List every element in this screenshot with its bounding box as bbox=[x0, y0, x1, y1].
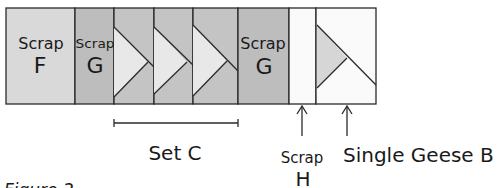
scrap-g-2-label-line1: Scrap bbox=[240, 34, 286, 53]
set-c-label: Set C bbox=[148, 141, 201, 165]
arrow-single-geese-b bbox=[342, 106, 352, 136]
block-scrap-h bbox=[289, 8, 316, 104]
figure-caption: Figure 2 bbox=[4, 180, 74, 188]
scrap-f-label-line1: Scrap bbox=[18, 34, 64, 53]
scrap-f-label-line2: F bbox=[34, 53, 47, 78]
block-flying-geese-2 bbox=[154, 8, 193, 104]
single-geese-b-label: Single Geese B bbox=[343, 143, 494, 167]
scrap-h-label-line2: H bbox=[295, 167, 310, 188]
scrap-g-1-label-line1: Scrap bbox=[76, 36, 115, 51]
scrap-g-1-label-line2: G bbox=[86, 53, 103, 78]
block-flying-geese-3 bbox=[193, 8, 238, 104]
block-single-geese-b bbox=[316, 8, 376, 104]
quilt-row-diagram: Scrap F Scrap G Scrap G Set C Scrap H Si… bbox=[0, 0, 501, 188]
arrow-scrap-h bbox=[297, 106, 307, 136]
scrap-h-label-line1: Scrap bbox=[281, 149, 324, 167]
block-flying-geese-1 bbox=[114, 8, 154, 104]
scrap-g-2-label-line2: G bbox=[255, 54, 272, 79]
set-c-bracket bbox=[114, 119, 238, 127]
